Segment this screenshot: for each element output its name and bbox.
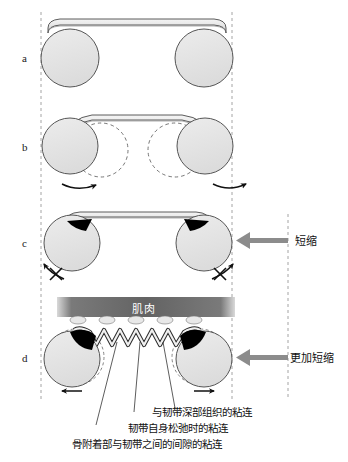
bone-right-a <box>175 29 233 87</box>
bone-left-a <box>41 29 99 87</box>
bone-left-b <box>42 118 98 174</box>
bone-right-b <box>177 118 233 174</box>
muscle-label: 肌肉 <box>132 300 155 316</box>
panel-letter-d: d <box>22 352 28 364</box>
caption-deep-tissue-adhesion: 与韧带深部组织的粘连 <box>152 404 252 419</box>
further-shortening-label: 更加短缩 <box>290 349 334 365</box>
panel-letter-b: b <box>22 141 28 153</box>
caption-slack-ligament-adhesion: 韧带自身松弛时的粘连 <box>128 420 228 435</box>
caption-bone-attachment-gap-adhesion: 骨附着部与韧带之间的间隙的粘连 <box>72 436 222 451</box>
ligament-adhesion-diagram <box>0 0 348 462</box>
panel-letter-a: a <box>22 52 27 64</box>
panel-letter-c: c <box>22 237 27 249</box>
shortening-label: 短缩 <box>295 232 317 248</box>
